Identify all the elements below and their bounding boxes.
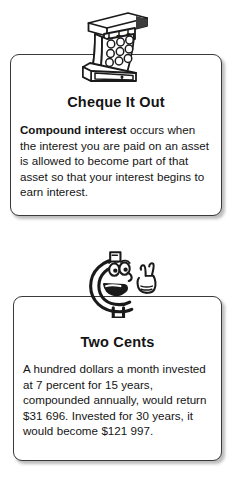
card-two-cents-title: Two Cents	[23, 297, 212, 351]
cent-mouth	[104, 284, 127, 295]
register-display-housing	[89, 13, 148, 36]
page-root: Cheque It Out Compound interest occurs w…	[0, 0, 234, 483]
cent-hand-peace-sign	[138, 263, 156, 293]
card-cheque-it-out-body-lead: Compound interest	[20, 123, 126, 136]
card-two-cents: Two Cents A hundred dollars a month inve…	[13, 296, 222, 461]
svg-text:C: C	[126, 31, 132, 41]
card-cheque-it-out: Cheque It Out Compound interest occurs w…	[10, 54, 222, 216]
svg-text:B: B	[116, 33, 122, 43]
card-cheque-it-out-inner: Cheque It Out Compound interest occurs w…	[11, 55, 221, 200]
register-price-tag: A B C	[104, 28, 135, 46]
card-two-cents-inner: Two Cents A hundred dollars a month inve…	[14, 297, 221, 439]
card-cheque-it-out-body: Compound interest occurs when the intere…	[20, 111, 212, 200]
register-tag-label: A	[106, 35, 112, 45]
card-cheque-it-out-title: Cheque It Out	[20, 55, 212, 111]
card-two-cents-body: A hundred dollars a month invested at 7 …	[23, 351, 212, 439]
cent-nose	[128, 273, 132, 281]
cent-face-eyes	[109, 261, 130, 276]
cent-hat	[110, 252, 120, 261]
